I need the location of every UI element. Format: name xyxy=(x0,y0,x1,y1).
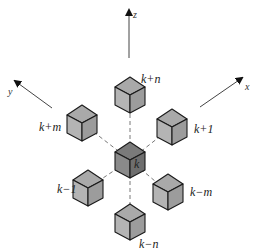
cube-label-k-1: k−1 xyxy=(57,182,76,196)
cube-k+m: k+m xyxy=(39,105,97,141)
y-axis: y xyxy=(7,81,52,108)
cube-label-k-n: k−n xyxy=(139,237,158,251)
cube-k+n: k+n xyxy=(115,72,160,113)
cube-label-k+n: k+n xyxy=(141,72,160,86)
z-axis: z xyxy=(129,9,137,58)
grid-neighborhood-diagram: zyx k+nk+mk+1kk−1k−mk−n xyxy=(0,0,258,252)
cube-k-n: k−n xyxy=(115,204,158,251)
cube-k-m: k−m xyxy=(153,174,212,210)
x-axis-arrow-icon xyxy=(200,78,242,107)
x-axis-label: x xyxy=(244,81,250,92)
y-axis-label: y xyxy=(7,86,13,97)
cube-k+1: k+1 xyxy=(157,109,213,145)
cube-label-k: k xyxy=(134,157,140,171)
z-axis-label: z xyxy=(132,9,137,20)
x-axis: x xyxy=(200,78,250,107)
cube-label-k+1: k+1 xyxy=(194,122,213,136)
cube-k: k xyxy=(115,142,145,178)
cube-label-k+m: k+m xyxy=(39,120,61,134)
cube-label-k-m: k−m xyxy=(190,185,212,199)
y-axis-arrow-icon xyxy=(15,81,52,108)
cubes: k+nk+mk+1kk−1k−mk−n xyxy=(39,72,213,251)
cube-k-1: k−1 xyxy=(57,170,103,206)
